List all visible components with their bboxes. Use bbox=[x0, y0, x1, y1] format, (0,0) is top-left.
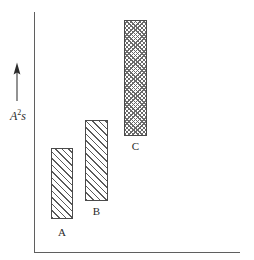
bar-c-label: C bbox=[124, 141, 147, 152]
bar-a[interactable] bbox=[51, 148, 73, 219]
y-axis-label: A2s bbox=[10, 110, 26, 122]
bar-c[interactable] bbox=[124, 20, 147, 136]
y-axis-label-term: s bbox=[21, 109, 26, 123]
horizontal-axis-line bbox=[34, 252, 240, 253]
bar-b[interactable] bbox=[85, 120, 108, 201]
bar-b-label: B bbox=[85, 206, 108, 217]
bar-a-label: A bbox=[51, 227, 73, 238]
vertical-axis-line bbox=[34, 12, 35, 253]
bar-diagram-figure: A2s A B C bbox=[0, 0, 254, 260]
up-arrow-icon bbox=[9, 60, 25, 104]
